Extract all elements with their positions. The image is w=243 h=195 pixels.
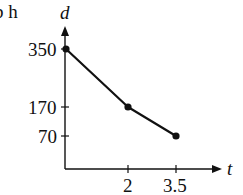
data-point-0: [62, 45, 69, 52]
x-tick-label-2: 2: [123, 176, 133, 195]
y-tick-label-70: 70: [38, 127, 57, 146]
y-axis-arrow-icon: [61, 26, 69, 36]
y-tick-label-350: 350: [28, 40, 57, 59]
y-tick-label-170: 170: [28, 98, 57, 117]
x-axis-label: t: [227, 159, 232, 178]
data-point-2: [172, 132, 179, 139]
x-axis-arrow-icon: [212, 165, 222, 173]
x-tick-label-3.5: 3.5: [163, 176, 187, 195]
data-point-1: [124, 103, 131, 110]
data-line: [66, 49, 176, 136]
y-axis-label: d: [60, 3, 70, 22]
